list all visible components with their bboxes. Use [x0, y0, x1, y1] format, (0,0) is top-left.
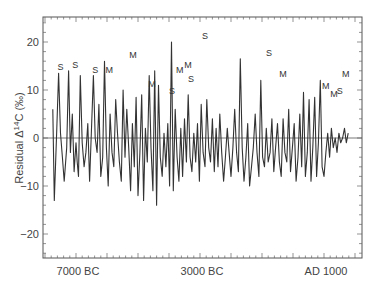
peak-label: M [322, 81, 330, 91]
peak-label: S [337, 86, 343, 96]
peak-label: M [279, 69, 287, 79]
peak-label: S [202, 31, 208, 41]
peak-label: M [184, 60, 192, 70]
peak-label: S [169, 86, 175, 96]
chart-svg: SSSMMMSMMSSSMMMSM 20100−10−20 7000 BC300… [0, 0, 379, 288]
x-tick-label: 3000 BC [181, 265, 224, 277]
x-tick-label: AD 1000 [305, 265, 348, 277]
x-tick-labels: 7000 BC3000 BCAD 1000 [57, 265, 348, 277]
peak-label: M [105, 65, 113, 75]
peak-label: M [129, 50, 137, 60]
y-tick-label: −20 [20, 228, 39, 240]
peak-label: M [148, 79, 156, 89]
peak-label: S [57, 62, 63, 72]
radiocarbon-residual-chart: SSSMMMSMMSSSMMMSM 20100−10−20 7000 BC300… [0, 0, 379, 288]
peak-label: S [72, 60, 78, 70]
peak-label: S [266, 48, 272, 58]
y-tick-label: 0 [33, 132, 39, 144]
peak-label: M [342, 69, 350, 79]
peak-label: M [176, 65, 184, 75]
peak-annotations: SSSMMMSMMSSSMMMSM [57, 31, 349, 99]
y-tick-label: 20 [27, 36, 39, 48]
y-axis-label: Residual Δ14C (‰) [12, 92, 25, 183]
y-tick-label: 10 [27, 84, 39, 96]
peak-label: S [188, 74, 194, 84]
x-tick-label: 7000 BC [57, 265, 100, 277]
peak-label: S [92, 65, 98, 75]
